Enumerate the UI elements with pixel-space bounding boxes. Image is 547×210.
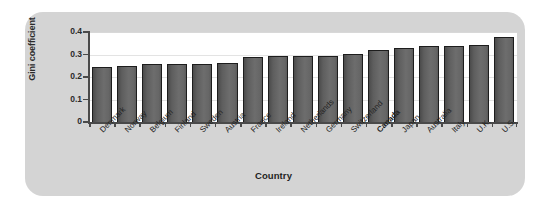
x-axis-tick	[240, 123, 242, 127]
x-axis-tick	[366, 123, 368, 127]
bar	[419, 46, 439, 122]
y-axis-title: Gini coefficient	[27, 0, 37, 99]
y-axis-tick-label: 0.2	[56, 72, 82, 81]
y-axis-tick	[83, 99, 88, 101]
bar	[243, 57, 263, 122]
x-axis-tick-labels: DenmarkNorwayBelgiumFinlandSwedenAustria…	[89, 128, 517, 172]
y-axis-tick-label: 0	[56, 117, 82, 126]
bar	[469, 45, 489, 122]
y-axis-tick-label: 0.3	[56, 50, 82, 59]
bar	[92, 67, 112, 122]
figure-root: 00.10.20.30.4 Gini coefficient DenmarkNo…	[0, 0, 547, 210]
y-axis-tick	[83, 121, 88, 123]
y-axis-tick	[83, 76, 88, 78]
bar	[293, 56, 313, 122]
bar	[494, 37, 514, 122]
x-axis-tick	[89, 123, 91, 127]
bar-series	[89, 32, 517, 122]
y-axis-tick-label: 0.4	[56, 27, 82, 36]
y-axis-tick	[83, 31, 88, 33]
bar	[268, 56, 288, 122]
y-axis-tick-label: 0.1	[56, 95, 82, 104]
y-axis-tick	[83, 54, 88, 56]
x-axis-title: Country	[0, 170, 547, 181]
